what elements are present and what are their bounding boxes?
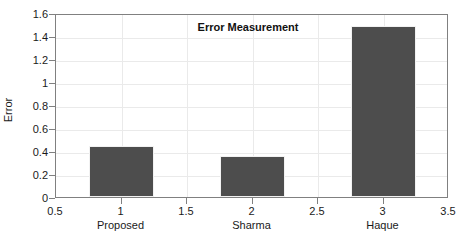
y-tick-label: 0 xyxy=(8,193,48,204)
y-tick-label: 1 xyxy=(8,78,48,89)
y-tick-mark xyxy=(49,152,55,153)
y-tick-label: 0.4 xyxy=(8,147,48,158)
x-tick-label: 3.5 xyxy=(423,205,470,217)
y-tick-mark xyxy=(49,14,55,15)
y-tick-label: 1.6 xyxy=(8,9,48,20)
y-tick-mark xyxy=(49,106,55,107)
x-tick-mark xyxy=(317,198,318,204)
x-tick-mark xyxy=(186,198,187,204)
x-tick-label: 2 xyxy=(227,205,277,217)
y-tick-mark xyxy=(49,198,55,199)
plot-area xyxy=(55,14,448,198)
y-tick-label: 1.4 xyxy=(8,32,48,43)
y-tick-label: 0.6 xyxy=(8,124,48,135)
chart-title: Error Measurement xyxy=(198,21,299,33)
bar-haque xyxy=(351,26,417,197)
chart-figure: Error Measurement Error 00.20.40.60.811.… xyxy=(0,0,470,240)
x-tick-mark xyxy=(121,198,122,204)
category-label-sharma: Sharma xyxy=(207,219,297,231)
y-tick-mark xyxy=(49,37,55,38)
bar-proposed xyxy=(89,146,155,197)
x-tick-mark xyxy=(252,198,253,204)
gridline-vertical xyxy=(318,15,319,197)
x-tick-label: 1 xyxy=(96,205,146,217)
x-tick-label: 3 xyxy=(358,205,408,217)
category-label-haque: Haque xyxy=(338,219,428,231)
x-tick-label: 0.5 xyxy=(30,205,80,217)
category-label-proposed: Proposed xyxy=(76,219,166,231)
y-tick-label: 1.2 xyxy=(8,55,48,66)
y-tick-mark xyxy=(49,129,55,130)
y-tick-label: 0.8 xyxy=(8,101,48,112)
y-tick-mark xyxy=(49,83,55,84)
x-tick-mark xyxy=(383,198,384,204)
y-tick-label: 0.2 xyxy=(8,170,48,181)
x-tick-label: 2.5 xyxy=(292,205,342,217)
x-tick-label: 1.5 xyxy=(161,205,211,217)
bar-sharma xyxy=(220,156,286,197)
gridline-vertical xyxy=(187,15,188,197)
y-tick-mark xyxy=(49,175,55,176)
y-tick-mark xyxy=(49,60,55,61)
